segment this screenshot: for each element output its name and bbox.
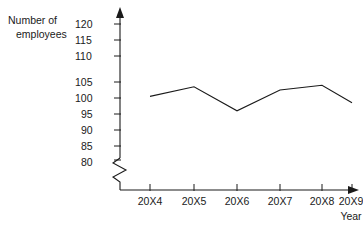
y-tick-label-110: 110 (75, 50, 92, 62)
y-tick-label-85: 85 (81, 140, 93, 152)
chart-page: Number of employees 120 115 110 105 100 … (0, 0, 363, 228)
y-axis-label-line1: Number of (8, 14, 57, 26)
x-axis-arrow-icon (348, 186, 359, 194)
y-tick-label-115: 115 (75, 34, 92, 46)
x-tick-label-20X7: 20X7 (268, 195, 293, 207)
y-tick-label-90: 90 (81, 124, 93, 136)
y-axis-label-line2: employees (16, 28, 67, 40)
y-tick-label-95: 95 (81, 108, 93, 120)
x-tick-label-20X5: 20X5 (182, 195, 207, 207)
x-tick-label-20X4: 20X4 (138, 195, 163, 207)
y-axis-break-icon (113, 158, 126, 190)
y-tick-label-80: 80 (81, 156, 93, 168)
x-axis-label: Year (340, 210, 362, 222)
x-tick-label-20X8: 20X8 (310, 195, 335, 207)
y-tick-label-100: 100 (75, 92, 93, 104)
y-tick-label-105: 105 (75, 76, 93, 88)
y-axis-arrow-icon (116, 7, 124, 18)
line-chart: Number of employees 120 115 110 105 100 … (0, 0, 363, 228)
x-tick-label-20X6: 20X6 (225, 195, 250, 207)
y-tick-label-120: 120 (75, 18, 93, 30)
x-tick-label-20X9: 20X9 (339, 195, 363, 207)
series-line-number-of-employees (150, 85, 352, 111)
